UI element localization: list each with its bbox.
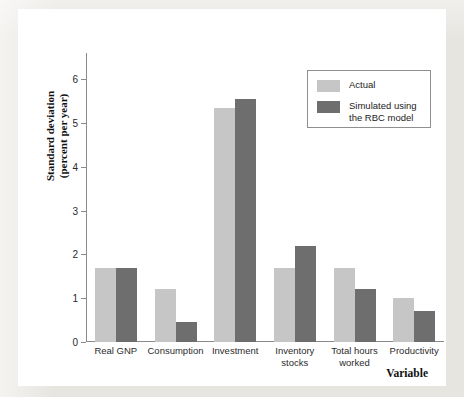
legend-swatch-actual (317, 80, 340, 92)
x-axis-title: Variable (386, 367, 428, 379)
x-axis-label: Real GNP (86, 345, 146, 357)
chart-legend: Actual Simulated using the RBC model (307, 70, 431, 128)
x-axis-label: Productivity (384, 345, 444, 357)
bar (393, 298, 414, 342)
chart-card: Standard deviation (percent per year) 01… (18, 9, 446, 386)
y-tick-label-6: 6 (72, 74, 78, 85)
bar (176, 322, 197, 342)
x-axis-label: Consumption (146, 345, 206, 357)
x-axis-label: Total hours worked (325, 345, 385, 368)
bar (214, 108, 235, 342)
y-tick-label-5: 5 (72, 118, 78, 129)
legend-swatch-simulated (317, 101, 340, 113)
y-axis-title: Standard deviation (percent per year) (44, 61, 70, 211)
y-tick-label-0: 0 (72, 337, 78, 348)
bar (295, 246, 316, 342)
bar-group (95, 53, 137, 342)
legend-label-simulated: Simulated using the RBC model (349, 100, 417, 123)
bar (235, 99, 256, 342)
x-axis-label: Investment (205, 345, 265, 357)
x-axis-label: Inventory stocks (265, 345, 325, 368)
y-tick-label-4: 4 (72, 161, 78, 172)
bar (274, 268, 295, 342)
legend-entry-actual: Actual (317, 79, 375, 92)
bar-group (214, 53, 256, 342)
bar (116, 268, 137, 342)
bar (95, 268, 116, 342)
y-tick-label-1: 1 (72, 293, 78, 304)
legend-label-actual: Actual (349, 79, 375, 91)
bar (355, 289, 376, 342)
bar (414, 311, 435, 342)
y-tick-0 (81, 342, 86, 343)
y-axis-title-wrapper: Standard deviation (percent per year) (52, 49, 86, 209)
bar-group (155, 53, 197, 342)
legend-entry-simulated: Simulated using the RBC model (317, 100, 417, 123)
chart-screenshot: Standard deviation (percent per year) 01… (0, 0, 464, 397)
y-tick-label-2: 2 (72, 249, 78, 260)
y-tick-label-3: 3 (72, 205, 78, 216)
bar (155, 289, 176, 342)
bar (334, 268, 355, 342)
